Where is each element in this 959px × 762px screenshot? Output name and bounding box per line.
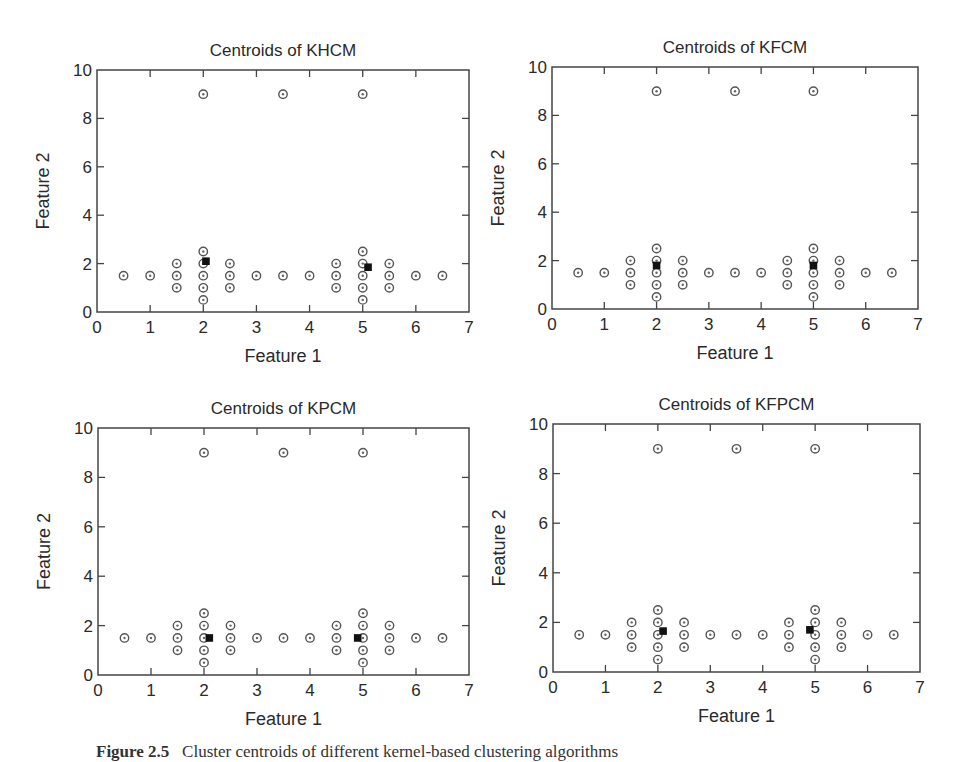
data-point xyxy=(759,631,767,639)
data-point xyxy=(811,655,819,663)
centroid-marker xyxy=(659,627,667,635)
data-point xyxy=(654,606,662,614)
data-point xyxy=(601,631,609,639)
x-tick-label: 2 xyxy=(653,678,662,697)
x-tick-label: 3 xyxy=(706,678,715,697)
data-point xyxy=(654,618,662,626)
data-point xyxy=(863,631,871,639)
data-point xyxy=(627,643,635,651)
data-point xyxy=(627,618,635,626)
data-point xyxy=(680,643,688,651)
x-tick-label: 7 xyxy=(915,678,924,697)
data-point xyxy=(811,643,819,651)
data-point xyxy=(811,606,819,614)
centroid-marker xyxy=(806,626,814,634)
data-point xyxy=(837,631,845,639)
y-tick-label: 10 xyxy=(529,415,548,434)
x-tick-label: 5 xyxy=(810,678,819,697)
data-point xyxy=(811,618,819,626)
data-point xyxy=(654,655,662,663)
data-point xyxy=(680,631,688,639)
data-point xyxy=(837,618,845,626)
chart-title: Centroids of KFPCM xyxy=(659,395,815,414)
y-tick-label: 0 xyxy=(539,663,548,682)
x-tick-label: 0 xyxy=(548,678,557,697)
data-point xyxy=(627,631,635,639)
figure-caption-label: Figure 2.5 xyxy=(96,742,169,761)
figure-caption-text: Cluster centroids of different kernel-ba… xyxy=(182,742,618,761)
data-point xyxy=(706,631,714,639)
data-point xyxy=(654,445,662,453)
x-tick-label: 1 xyxy=(601,678,610,697)
y-tick-label: 2 xyxy=(539,613,548,632)
figure-caption: Figure 2.5 Cluster centroids of differen… xyxy=(96,742,618,762)
data-point xyxy=(654,643,662,651)
data-point xyxy=(785,631,793,639)
y-tick-label: 6 xyxy=(539,514,548,533)
data-point xyxy=(837,643,845,651)
data-point xyxy=(680,618,688,626)
data-point xyxy=(811,445,819,453)
y-axis-label: Feature 2 xyxy=(489,509,509,586)
data-point xyxy=(732,631,740,639)
data-point xyxy=(785,643,793,651)
y-tick-label: 4 xyxy=(539,564,548,583)
data-point xyxy=(890,631,898,639)
x-tick-label: 4 xyxy=(758,678,767,697)
x-tick-label: 6 xyxy=(863,678,872,697)
data-point xyxy=(732,445,740,453)
x-axis-label: Feature 1 xyxy=(698,706,775,726)
data-point xyxy=(575,631,583,639)
data-point xyxy=(785,618,793,626)
y-tick-label: 8 xyxy=(539,465,548,484)
